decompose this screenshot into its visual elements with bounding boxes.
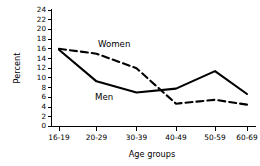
y-tick-label: 12 <box>37 63 46 72</box>
y-axis-title: Percent <box>12 52 22 84</box>
y-tick-label: 0 <box>41 121 46 130</box>
y-tick-label: 4 <box>41 102 46 111</box>
series-group <box>59 49 247 105</box>
x-tick-label: 50-59 <box>204 133 226 142</box>
y-tick-label: 14 <box>37 54 47 63</box>
y-tick-label: 6 <box>41 92 46 101</box>
y-tick-label: 2 <box>41 112 46 121</box>
series-line-women <box>59 49 247 105</box>
series-line-men <box>59 50 247 94</box>
x-tick-label: 30-39 <box>126 133 148 142</box>
x-tick-label: 16-19 <box>48 133 70 142</box>
x-tick-label-group: 16-1920-2930-3940-4950-5960-69 <box>48 133 258 142</box>
y-tick-label: 20 <box>37 24 47 33</box>
y-tick-label: 24 <box>37 5 47 14</box>
series-annotation-men: Men <box>95 92 113 102</box>
chart-canvas: 024681012141618202224 Percent 16-1920-29… <box>0 0 260 166</box>
y-axis: 024681012141618202224 Percent <box>12 5 52 131</box>
y-tick-group <box>48 10 52 127</box>
series-annotation-women: Women <box>98 39 130 49</box>
x-tick-label: 20-29 <box>86 133 108 142</box>
x-tick-group <box>59 127 247 132</box>
y-tick-label-group: 024681012141618202224 <box>37 5 47 131</box>
x-axis-title: Age groups <box>129 149 175 159</box>
y-tick-label: 10 <box>37 73 47 82</box>
series-label-group: WomenMen <box>95 39 130 102</box>
y-tick-label: 18 <box>37 34 47 43</box>
y-tick-label: 8 <box>41 83 46 92</box>
y-tick-label: 22 <box>37 15 46 24</box>
x-tick-label: 40-49 <box>165 133 187 142</box>
x-axis: 16-1920-2930-3940-4950-5960-69 Age group… <box>48 127 258 160</box>
y-tick-label: 16 <box>37 44 47 53</box>
x-tick-label: 60-69 <box>236 133 258 142</box>
line-chart: 024681012141618202224 Percent 16-1920-29… <box>0 0 260 166</box>
